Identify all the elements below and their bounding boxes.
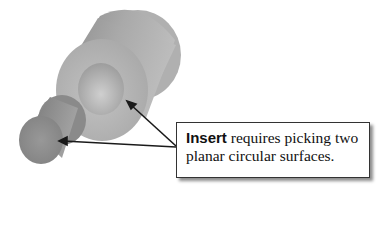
arrow-to-bore xyxy=(130,104,176,146)
callout-line-1: Insert requires picking two xyxy=(186,129,361,147)
callout-text-1: requires picking two xyxy=(227,129,358,146)
callout-keyword: Insert xyxy=(186,129,227,146)
arrow-to-small-face xyxy=(63,141,176,147)
solid-cylinder xyxy=(19,95,86,164)
solid-cylinder-end-face xyxy=(19,116,63,164)
callout-box: Insert requires picking two planar circu… xyxy=(176,122,370,178)
tube-bore-hole xyxy=(78,63,124,115)
callout-line-2: planar circular surfaces. xyxy=(186,147,361,165)
